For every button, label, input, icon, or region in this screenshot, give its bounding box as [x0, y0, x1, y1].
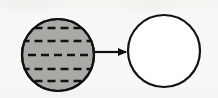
source-sphere-group — [15, 19, 101, 91]
target-sphere-group — [128, 15, 200, 87]
target-sphere-circle — [128, 15, 200, 87]
transform-arrow-head-icon — [118, 48, 127, 56]
diagram-svg — [0, 0, 218, 98]
transform-arrow-group — [95, 48, 127, 56]
figure-canvas — [0, 0, 218, 98]
